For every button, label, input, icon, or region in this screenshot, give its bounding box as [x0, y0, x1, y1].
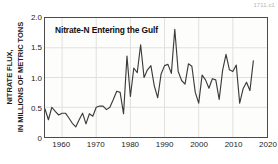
y-axis-title-line-1: NITRATE FLUX, — [5, 49, 14, 104]
x-tick-label: 2020 — [259, 140, 277, 149]
x-axis-tick-labels: 1960197019801990200020102020 — [44, 140, 268, 154]
x-tick-label: 1960 — [52, 140, 70, 149]
x-tick-label: 1990 — [156, 140, 174, 149]
data-line-nitrate-flux — [45, 29, 253, 127]
y-tick-label: 1.5 — [31, 43, 42, 52]
x-tick-label: 2010 — [225, 140, 243, 149]
y-tick-label: 0.5 — [31, 103, 42, 112]
y-axis-tick-labels: 00.51.01.52.0 — [22, 14, 42, 140]
x-tick-label: 1980 — [121, 140, 139, 149]
y-tick-label: 1.0 — [31, 73, 42, 82]
x-tick-label: 2000 — [190, 140, 208, 149]
plot-area: Nitrate-N Entering the Gulf — [44, 17, 268, 138]
figure-container: 1711.c1 NITRATE FLUX, IN MILLIONS OF MET… — [0, 0, 278, 164]
x-tick-label: 1970 — [87, 140, 105, 149]
figure-id-label: 1711.c1 — [253, 2, 275, 8]
chart-title: Nitrate-N Entering the Gulf — [55, 25, 158, 35]
line-chart-svg — [45, 18, 267, 137]
horizontal-gridlines — [45, 48, 267, 108]
y-tick-label: 0 — [38, 134, 42, 143]
y-tick-label: 2.0 — [31, 13, 42, 22]
